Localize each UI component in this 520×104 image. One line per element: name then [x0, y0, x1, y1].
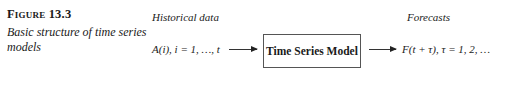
output-expression: F(t + τ), τ = 1, 2, … [402, 43, 490, 55]
output-heading: Forecasts [407, 11, 450, 23]
arrow-right-icon [229, 49, 257, 50]
arrow-right-icon [369, 49, 396, 50]
input-expression: A(i), i = 1, …, t [152, 43, 220, 55]
model-label: Time Series Model [266, 45, 358, 57]
input-heading: Historical data [152, 11, 219, 23]
figure-caption: Basic structure of time series models [7, 25, 147, 55]
figure-label: Figure 13.3 [7, 7, 71, 22]
model-box: Time Series Model [263, 34, 361, 68]
